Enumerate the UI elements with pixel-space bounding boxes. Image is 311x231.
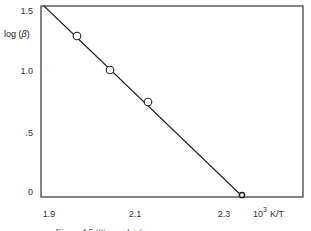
- data-point: [239, 192, 244, 197]
- y-tick-label: 1.0: [20, 66, 33, 76]
- data-point: [106, 66, 114, 74]
- data-point: [73, 32, 81, 40]
- x-tick-label: 2.1: [129, 209, 142, 219]
- y-tick-label: 1.5: [20, 6, 33, 16]
- chart-canvas: 1.5 1.0 .5 0 log (β) 1.9 2.1 2.3 103K/T …: [0, 0, 311, 231]
- x-axis-title: 103K/T: [253, 206, 284, 219]
- x-tick-label: 1.9: [43, 209, 56, 219]
- y-tick-label: 0: [28, 187, 33, 197]
- data-point: [144, 98, 152, 106]
- data-markers: [73, 32, 244, 197]
- y-tick-label: .5: [25, 128, 33, 138]
- y-axis-title: log (β): [4, 29, 30, 39]
- figure-caption: Figure 4.5 (β) - ... plot f...: [54, 227, 147, 231]
- x-tick-label: 2.3: [218, 209, 231, 219]
